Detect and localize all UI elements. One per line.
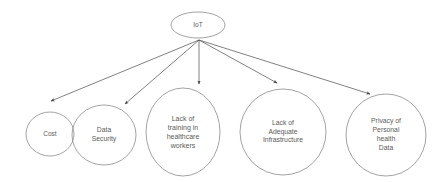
node-data-security[interactable] bbox=[72, 105, 136, 165]
node-cost[interactable] bbox=[26, 112, 74, 156]
arrow-iot-to-privacy-personal-health-data bbox=[199, 40, 370, 94]
edges-group bbox=[51, 40, 370, 104]
node-lack-of-training[interactable] bbox=[146, 88, 220, 176]
arrow-iot-to-lack-of-infrastructure bbox=[199, 40, 277, 83]
iot-challenges-diagram: IoTCostData SecurityLack of training in … bbox=[0, 0, 435, 182]
node-privacy-personal-health-data[interactable] bbox=[346, 94, 426, 176]
node-iot[interactable] bbox=[171, 12, 225, 38]
arrow-iot-to-data-security bbox=[125, 40, 199, 104]
diagram-canvas bbox=[0, 0, 435, 182]
arrow-iot-to-cost bbox=[51, 40, 199, 101]
node-lack-of-infrastructure[interactable] bbox=[240, 89, 326, 175]
nodes-group bbox=[26, 12, 426, 176]
